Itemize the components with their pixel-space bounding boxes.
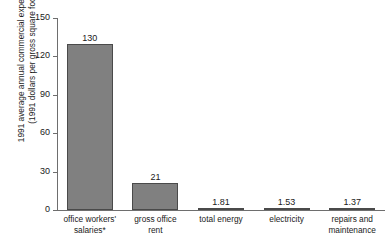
y-axis-tick: 90 xyxy=(53,95,57,96)
bar: 130 xyxy=(67,44,113,210)
y-axis-tick: 0 xyxy=(53,210,57,211)
y-axis-title-line-1: 1991 average annual commercial expenditu… xyxy=(16,0,27,142)
y-axis-tick: 150 xyxy=(53,18,57,19)
x-axis-category-line: total energy xyxy=(188,214,254,225)
y-axis-title: 1991 average annual commercial expenditu… xyxy=(14,0,40,158)
y-axis-line xyxy=(57,18,58,210)
bar-chart: 1991 average annual commercial expenditu… xyxy=(0,0,390,252)
x-axis-line xyxy=(57,210,385,211)
y-axis-tick-label: 0 xyxy=(45,204,50,214)
y-axis-tick: 120 xyxy=(53,56,57,57)
bar: 1.81 xyxy=(198,208,244,210)
x-axis-category-label: repairs andmaintenance xyxy=(319,214,385,235)
y-axis-tick: 30 xyxy=(53,172,57,173)
bar-value-label: 1.81 xyxy=(212,197,230,207)
y-axis-tick-label: 30 xyxy=(40,166,50,176)
bar: 1.37 xyxy=(329,208,375,210)
y-axis-tick-label: 150 xyxy=(35,12,50,22)
bar-value-label: 130 xyxy=(82,33,97,43)
x-axis-category-label: electricity xyxy=(254,214,320,225)
x-axis-category-line: office workers' xyxy=(57,214,123,225)
x-axis-category-line: gross office xyxy=(123,214,189,225)
x-axis-category-label: office workers'salaries* xyxy=(57,214,123,235)
y-axis-tick-label: 120 xyxy=(35,50,50,60)
y-axis-tick-label: 60 xyxy=(40,127,50,137)
bar-value-label: 1.37 xyxy=(343,197,361,207)
bar-value-label: 1.53 xyxy=(278,197,296,207)
x-axis-category-line: rent xyxy=(123,225,189,236)
x-axis-category-line: repairs and xyxy=(319,214,385,225)
y-axis-tick-label: 90 xyxy=(40,89,50,99)
x-axis-category-label: total energy xyxy=(188,214,254,225)
x-axis-category-line: electricity xyxy=(254,214,320,225)
bar: 21 xyxy=(132,183,178,210)
x-axis-category-line: maintenance xyxy=(319,225,385,236)
bar-value-label: 21 xyxy=(150,172,160,182)
y-axis-tick: 60 xyxy=(53,133,57,134)
x-axis-category-label: gross officerent xyxy=(123,214,189,235)
plot-area: 1501209060300130office workers'salaries*… xyxy=(57,18,385,210)
bar: 1.53 xyxy=(264,208,310,210)
x-axis-category-line: salaries* xyxy=(57,225,123,236)
